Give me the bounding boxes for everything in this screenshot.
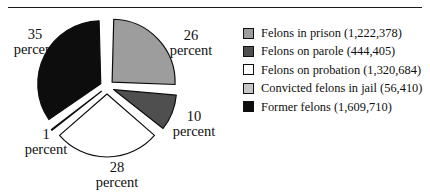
legend-label-former: Former felons (1,609,710) [261, 101, 392, 113]
legend-swatch-jail [243, 83, 254, 94]
slice-label-jail-value: 1 [10, 127, 82, 142]
legend-swatch-parole [243, 46, 254, 57]
slice-label-probation-value: 28 [82, 160, 152, 175]
legend-label-prison: Felons in prison (1,222,378) [261, 27, 402, 39]
legend-item-probation: Felons on probation (1,320,684) [243, 61, 429, 79]
legend-swatch-prison [243, 28, 254, 39]
slice-label-probation: 28 percent [82, 160, 152, 190]
slice-label-prison-value: 26 [160, 28, 222, 43]
legend-label-jail: Convicted felons in jail (56,410) [261, 82, 422, 94]
slice-label-probation-unit: percent [82, 175, 152, 190]
legend-item-jail: Convicted felons in jail (56,410) [243, 79, 429, 97]
pie-chart-figure: 26 percent 10 percent 28 percent 1 perce… [0, 0, 430, 192]
legend-item-former: Former felons (1,609,710) [243, 98, 429, 116]
slice-label-parole-unit: percent [163, 124, 225, 139]
legend-item-parole: Felons on parole (444,405) [243, 42, 429, 60]
legend-label-probation: Felons on probation (1,320,684) [261, 64, 421, 76]
slice-label-jail-unit: percent [10, 142, 82, 157]
slice-label-jail: 1 percent [10, 127, 82, 157]
pie-chart-area: 26 percent 10 percent 28 percent 1 perce… [0, 10, 215, 182]
legend-swatch-former [243, 101, 254, 112]
chart-legend: Felons in prison (1,222,378) Felons on p… [243, 24, 429, 116]
slice-label-former-value: 35 [5, 27, 65, 42]
slice-label-former-unit: percent [5, 42, 65, 57]
legend-item-prison: Felons in prison (1,222,378) [243, 24, 429, 42]
figure-top-rule [8, 7, 422, 8]
slice-label-parole-value: 10 [163, 109, 225, 124]
slice-label-prison-unit: percent [160, 43, 222, 58]
slice-label-parole: 10 percent [163, 109, 225, 139]
slice-label-former: 35 percent [5, 27, 65, 57]
legend-swatch-probation [243, 64, 254, 75]
legend-label-parole: Felons on parole (444,405) [261, 45, 395, 57]
slice-label-prison: 26 percent [160, 28, 222, 58]
